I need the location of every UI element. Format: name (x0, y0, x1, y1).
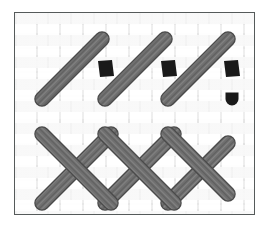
stitch-layer (15, 13, 255, 215)
upper-stitch-row (42, 39, 228, 99)
stitch-2 (105, 39, 165, 99)
lower-lattice-band (42, 134, 228, 203)
stitch-1 (42, 39, 102, 99)
lattice-down-strokes (42, 134, 228, 203)
hole-2 (161, 60, 177, 77)
diagram-frame (14, 12, 255, 215)
hole-3 (224, 60, 240, 77)
hole-1 (98, 60, 114, 77)
stitch-diagram-figure (0, 0, 270, 235)
stitch-3 (168, 39, 228, 99)
thread-end-stub (226, 93, 239, 106)
